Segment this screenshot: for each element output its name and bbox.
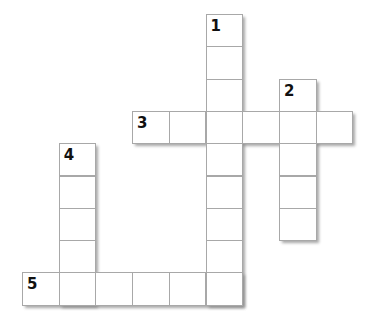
crossword-cell[interactable] [206,176,244,209]
crossword-cell[interactable] [169,272,207,305]
crossword-cell[interactable] [206,143,244,176]
crossword-cell[interactable] [279,111,317,144]
crossword-cell[interactable] [206,272,244,305]
crossword-grid: 12345 [0,0,375,325]
crossword-cell[interactable] [59,272,97,305]
crossword-cell[interactable] [206,208,244,241]
crossword-cell[interactable] [206,46,244,79]
crossword-cell[interactable]: 5 [22,272,60,305]
clue-number: 4 [64,146,74,164]
crossword-cell[interactable]: 4 [59,143,97,176]
clue-number: 3 [137,114,147,132]
crossword-cell[interactable] [95,272,133,305]
crossword-cell[interactable] [132,272,170,305]
crossword-cell[interactable] [206,79,244,112]
crossword-cell[interactable] [169,111,207,144]
crossword-cell[interactable] [279,176,317,209]
clue-number: 1 [211,17,221,35]
crossword-cell[interactable] [59,208,97,241]
crossword-cell[interactable]: 2 [279,79,317,112]
crossword-cell[interactable] [316,111,354,144]
clue-number: 5 [27,275,37,293]
crossword-cell[interactable] [279,208,317,241]
crossword-cell[interactable]: 3 [132,111,170,144]
crossword-cell[interactable] [59,240,97,273]
crossword-cell[interactable] [206,111,244,144]
crossword-cell[interactable] [206,240,244,273]
crossword-cell[interactable]: 1 [206,14,244,47]
clue-number: 2 [284,82,294,100]
crossword-cell[interactable] [242,111,280,144]
crossword-cell[interactable] [59,176,97,209]
crossword-cell[interactable] [279,143,317,176]
